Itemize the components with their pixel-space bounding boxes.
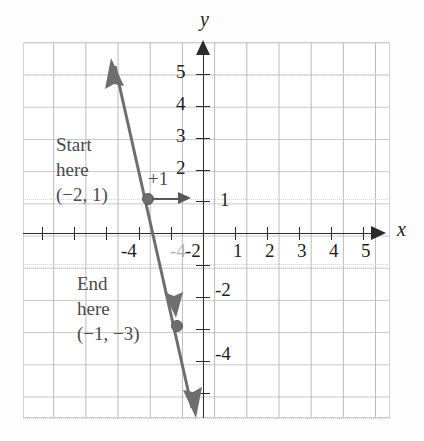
x-tick [171, 227, 172, 240]
run-arrow-head-icon [178, 192, 191, 204]
x-tick [42, 227, 43, 240]
x-axis-label: x [397, 218, 406, 241]
y-tick-label: 3 [176, 126, 186, 145]
x-tick-label: -2 [185, 241, 201, 260]
x-tick-label: 3 [297, 241, 307, 260]
x-tick-label: 5 [361, 241, 371, 260]
run-arrow-line [152, 198, 180, 200]
x-tick-label: 4 [329, 241, 339, 260]
x-tick [106, 227, 107, 240]
end-label-line1: End [77, 272, 108, 296]
end-label-coords: (−1, −3) [77, 322, 140, 346]
grid-dotted-col [23, 42, 24, 418]
y-tick-label: 4 [176, 94, 186, 113]
y-tick [196, 138, 210, 139]
start-label-line2: here [56, 158, 89, 182]
y-tick [196, 297, 210, 298]
x-axis [23, 233, 375, 234]
y-tick [196, 170, 210, 171]
point-end[interactable] [171, 320, 183, 332]
y-tick-label: 5 [176, 62, 186, 81]
y-tick [196, 201, 210, 202]
y-tick-label: -4 [215, 344, 231, 363]
x-tick [299, 227, 300, 240]
run-label: +1 [148, 168, 168, 190]
y-tick [196, 393, 210, 394]
x-tick [74, 227, 75, 240]
x-tick [331, 227, 332, 240]
grid-dotted-col [389, 42, 390, 418]
y-tick-label: 2 [176, 158, 186, 177]
y-tick-label: 1 [220, 190, 230, 209]
end-label-line2: here [77, 297, 110, 321]
x-tick [235, 227, 236, 240]
y-tick [196, 265, 210, 266]
x-tick-label-artifact: -4 [170, 241, 186, 260]
y-tick [196, 361, 210, 362]
y-tick [196, 74, 210, 75]
y-axis-arrow-icon [196, 40, 210, 55]
y-tick-label: -2 [215, 280, 231, 299]
x-tick [267, 227, 268, 240]
y-tick [196, 329, 210, 330]
x-axis-arrow-icon [371, 226, 386, 240]
y-tick [196, 106, 210, 107]
coordinate-plane-figure: y x -4 -2 -4 1 2 3 4 5 5 4 3 2 1 -2 -4 +… [0, 0, 424, 441]
start-label-coords: (−2, 1) [56, 183, 108, 207]
x-tick-label: 2 [265, 241, 275, 260]
grid-dotted-row [23, 418, 390, 419]
x-tick-label: -4 [121, 241, 137, 260]
start-label-line1: Start [56, 133, 92, 157]
x-tick [363, 227, 364, 240]
y-axis-label: y [200, 8, 209, 31]
x-tick [139, 227, 140, 240]
x-tick-label: 1 [233, 241, 243, 260]
